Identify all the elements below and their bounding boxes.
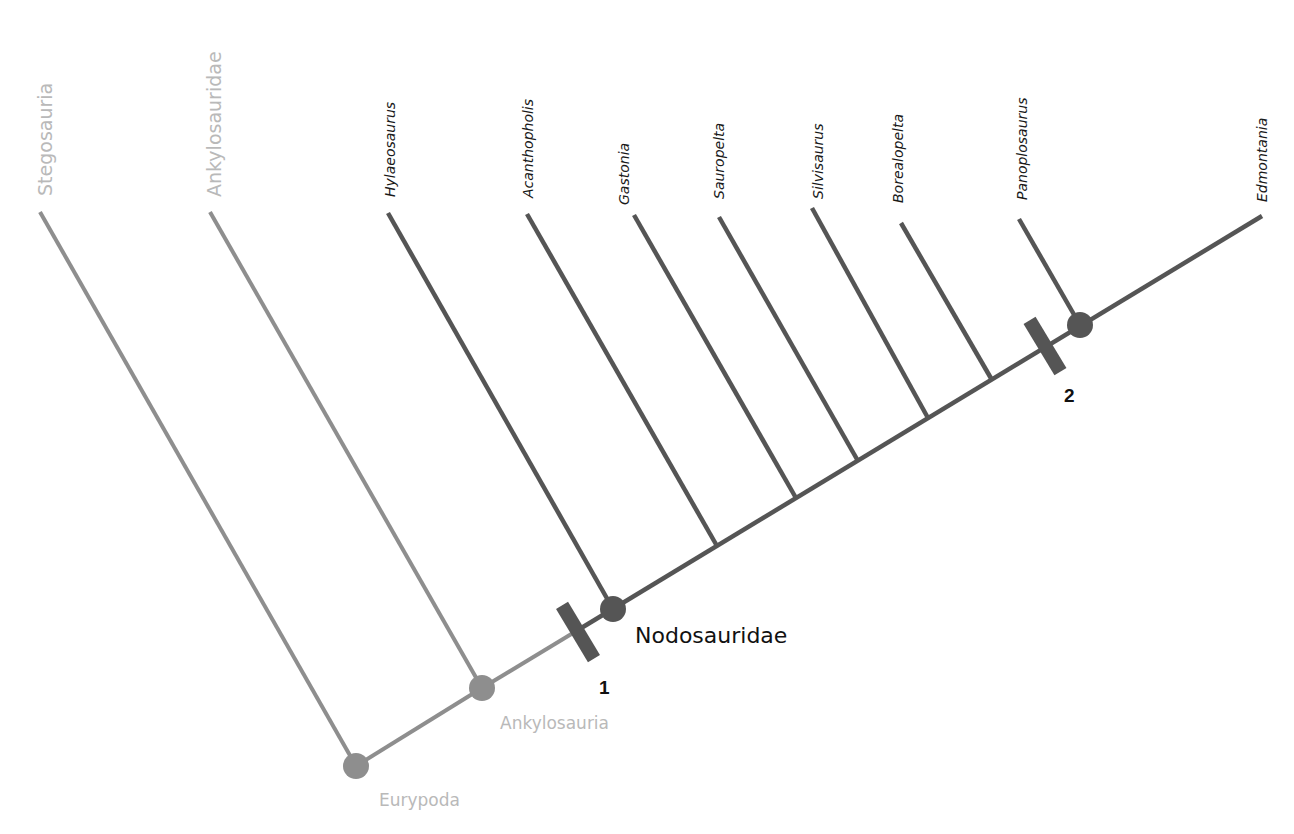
spine-nodosauridae [578, 216, 1262, 630]
node-panoplosaurus-edmontania [1067, 312, 1093, 338]
synapomorphy-bar-1 [556, 602, 600, 662]
branch-gastonia [634, 215, 796, 498]
clade-label-eurypoda: Eurypoda [379, 790, 460, 810]
synapomorphy-label-1: 1 [599, 677, 610, 698]
outgroup-branches [40, 212, 578, 766]
taxon-label-acanthopholis: Acanthopholis [520, 99, 536, 199]
taxon-label-stegosauria: Stegosauria [34, 83, 56, 196]
branch-panoplosaurus [1019, 219, 1080, 325]
clade-label-nodosauridae: Nodosauridae [635, 623, 787, 648]
branch-ankylosauridae [210, 212, 482, 688]
synapomorphy-label-2: 2 [1064, 385, 1075, 406]
cladogram: Stegosauria Ankylosauridae Hylaeosaurus … [0, 0, 1294, 834]
spine-eurypoda-ankylosauria [356, 688, 482, 766]
synapomorphy-bar-2 [1024, 317, 1067, 376]
branch-hylaeosaurus [388, 213, 613, 609]
spine-ankylosauria-bar1 [482, 630, 578, 688]
branch-acanthopholis [527, 214, 717, 546]
taxon-label-hylaeosaurus: Hylaeosaurus [382, 102, 398, 197]
taxon-label-borealopelta: Borealopelta [890, 114, 906, 203]
taxon-label-edmontania: Edmontania [1254, 118, 1270, 202]
branch-borealopelta [901, 223, 992, 380]
node-ankylosauria [469, 675, 495, 701]
node-nodosauridae [600, 596, 626, 622]
taxon-label-gastonia: Gastonia [616, 143, 632, 205]
taxon-label-panoplosaurus: Panoplosaurus [1014, 98, 1030, 200]
ingroup-branches [388, 208, 1262, 630]
node-eurypoda [343, 753, 369, 779]
clade-label-ankylosauria: Ankylosauria [500, 713, 609, 733]
branch-stegosauria [40, 212, 356, 766]
taxon-label-ankylosauridae: Ankylosauridae [203, 51, 225, 197]
taxon-label-sauropelta: Sauropelta [711, 123, 727, 199]
taxon-label-silvisaurus: Silvisaurus [810, 123, 826, 199]
